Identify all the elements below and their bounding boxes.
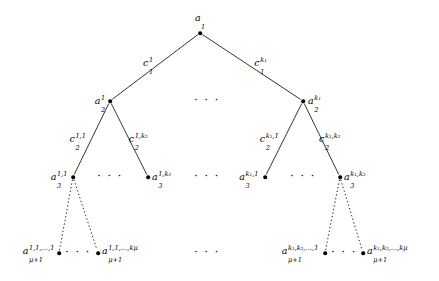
tree-edge-label: c11: [143, 58, 153, 68]
math-label: a1: [195, 13, 205, 23]
math-base: c: [254, 57, 259, 68]
tree-edge-label: ck₁1: [254, 58, 267, 68]
math-label: a1,13: [51, 172, 68, 182]
tree-node-label: ak₁,k₂,…,1μ+1: [282, 246, 320, 256]
tree-edge: [60, 180, 73, 250]
tree-node-label: a1,1,…,kμμ+1: [102, 246, 137, 256]
math-base: a: [102, 245, 108, 256]
math-subscript: μ+1: [108, 258, 122, 265]
math-subscript: 3: [246, 184, 250, 191]
math-base: a: [308, 95, 314, 106]
math-base: a: [195, 12, 201, 23]
math-base: a: [367, 245, 373, 256]
math-label: ak₁,13: [239, 172, 260, 182]
math-subscript: 1: [149, 70, 153, 77]
math-subscript: 1: [260, 70, 264, 77]
math-base: a: [152, 171, 158, 182]
tree-edge: [326, 180, 340, 250]
math-subscript: 3: [158, 184, 162, 191]
math-superscript: k₁,k₂,…,1: [288, 245, 318, 252]
tree-edge: [74, 180, 97, 250]
math-superscript: 1,1: [75, 133, 86, 140]
math-base: a: [95, 95, 101, 106]
math-label: c11: [143, 58, 153, 68]
math-subscript: 1: [201, 25, 205, 32]
math-subscript: 2: [266, 146, 270, 153]
math-label: ak₁,k₂,…,kμμ+1: [367, 246, 409, 256]
math-label: a12: [95, 96, 105, 106]
tree-node-label: a12: [95, 96, 105, 106]
math-subscript: 3: [57, 184, 61, 191]
math-base: c: [129, 133, 134, 144]
tree-node-dot: [71, 175, 75, 179]
ellipsis: · · ·: [194, 94, 219, 107]
tree-node-label: a1,1,…,1μ+1: [23, 246, 54, 256]
tree-node-label: ak₁,k₂,…,kμμ+1: [367, 246, 409, 256]
math-label: ak₁,k₂,…,1μ+1: [282, 246, 320, 256]
math-base: a: [344, 171, 350, 182]
tree-edge-label: c1,12: [70, 134, 87, 144]
math-superscript: 1,k₂: [158, 171, 171, 178]
math-superscript: k₁,k₂: [325, 133, 340, 140]
tree-node-dot: [198, 31, 202, 35]
math-label: c1,k₂2: [129, 134, 149, 144]
math-label: ak₁,k₂3: [344, 172, 368, 182]
math-subscript: 2: [325, 146, 329, 153]
tree-node-dot: [323, 251, 327, 255]
math-superscript: 1,1,…,1: [29, 245, 54, 252]
tree-edge-label: ck₁,k₂2: [319, 134, 343, 144]
math-subscript: μ+1: [29, 258, 43, 265]
tree-node-label: a1,13: [51, 172, 68, 182]
tree-node-dot: [57, 251, 61, 255]
tree-node-label: ak₁,k₂3: [344, 172, 368, 182]
math-subscript: 2: [75, 146, 79, 153]
ellipsis: · · ·: [97, 170, 122, 183]
math-base: a: [51, 171, 57, 182]
math-subscript: 3: [350, 184, 354, 191]
math-base: c: [70, 133, 75, 144]
tree-edges-layer: [0, 0, 439, 281]
math-superscript: 1,k₂: [135, 133, 148, 140]
math-superscript: k₁,1: [246, 171, 259, 178]
tree-edge-label: ck₁,12: [260, 134, 280, 144]
math-superscript: k₁,k₂,…,kμ: [373, 245, 407, 252]
math-label: ck₁,k₂2: [319, 134, 343, 144]
math-superscript: 1,1,…,kμ: [108, 245, 138, 252]
math-base: c: [319, 133, 324, 144]
ellipsis: · · ·: [194, 170, 219, 183]
math-label: c1,12: [70, 134, 87, 144]
math-label: ck₁,12: [260, 134, 280, 144]
ellipsis: · · ·: [194, 246, 219, 259]
tree-node-dot: [361, 251, 365, 255]
tree-diagram-figure: a1a12ak₁2· · ·a1,13a1,k₂3ak₁,13ak₁,k₂3· …: [0, 0, 439, 281]
math-label: a1,1,…,1μ+1: [23, 246, 54, 256]
tree-node-dot: [96, 251, 100, 255]
ellipsis: · · ·: [290, 170, 315, 183]
tree-node-label: a1: [195, 13, 205, 23]
ellipsis: · · ·: [331, 246, 356, 259]
math-superscript: 1,1: [57, 171, 68, 178]
tree-node-label: a1,k₂3: [152, 172, 173, 182]
tree-edge: [203, 35, 301, 99]
math-superscript: k₁,k₂: [350, 171, 365, 178]
math-base: c: [143, 57, 148, 68]
math-superscript: 1: [101, 95, 105, 102]
tree-node-label: ak₁,13: [239, 172, 260, 182]
tree-node-dot: [108, 99, 112, 103]
math-superscript: k₁: [260, 57, 267, 64]
math-superscript: k₁,1: [266, 133, 279, 140]
tree-node-dot: [263, 175, 267, 179]
math-base: a: [23, 245, 29, 256]
tree-node-label: ak₁2: [308, 96, 322, 106]
math-label: ak₁2: [308, 96, 322, 106]
tree-node-dot: [338, 175, 342, 179]
tree-edge-label: c1,k₂2: [129, 134, 149, 144]
math-base: a: [282, 245, 288, 256]
math-subscript: μ+1: [288, 258, 302, 265]
tree-node-dot: [301, 99, 305, 103]
tree-node-dot: [146, 175, 150, 179]
math-subscript: μ+1: [373, 258, 387, 265]
tree-edge: [341, 180, 362, 250]
math-label: a1,k₂3: [152, 172, 173, 182]
tree-edge: [113, 35, 198, 99]
